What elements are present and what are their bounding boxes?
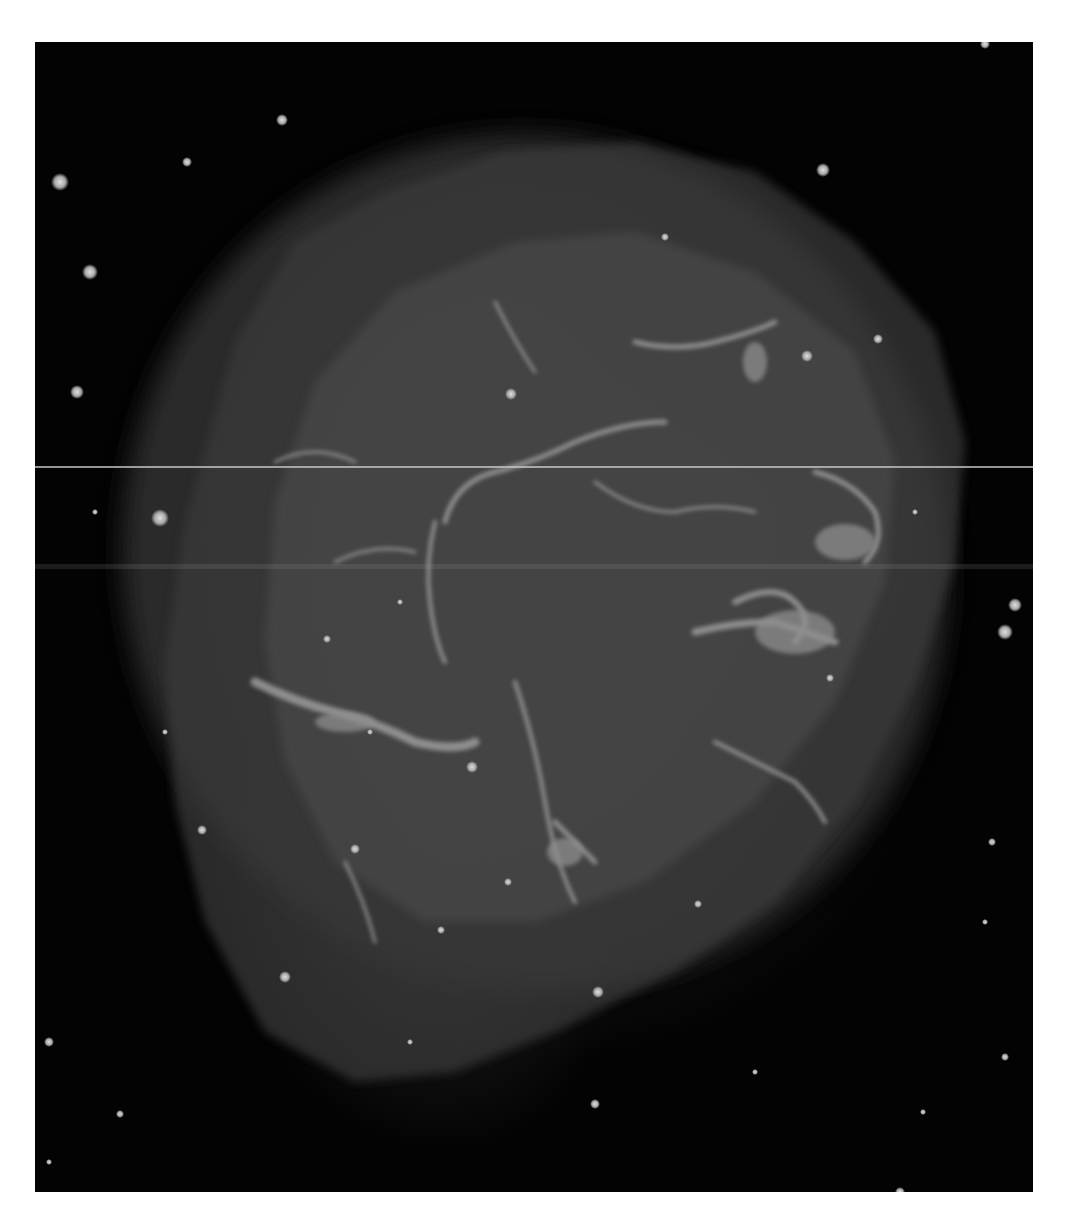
nebula-filaments (35, 42, 1033, 1192)
scan-artifact-line (35, 466, 1033, 468)
scan-artifact-band (35, 564, 1033, 569)
nebula-photograph (35, 42, 1033, 1192)
